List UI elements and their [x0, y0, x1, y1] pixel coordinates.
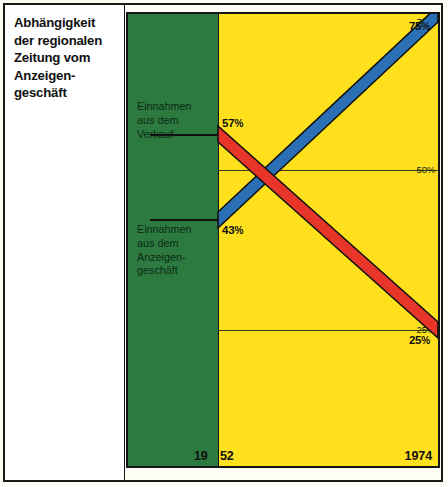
- value-label-57: 57%: [222, 117, 243, 129]
- xtick-1974: 1974: [405, 449, 432, 463]
- series-line-sales: [218, 126, 438, 338]
- plot-area: 75% 50% 25% Einnahmen aus dem Verkauf Ei…: [126, 12, 440, 468]
- value-label-25: 25%: [409, 334, 430, 346]
- title-line-4: Anzeigen-: [14, 67, 122, 85]
- xtick-1952-part2: 52: [220, 449, 234, 463]
- title-line-3: Zeitung vom: [14, 49, 122, 67]
- xtick-1952-part1: 19: [194, 449, 208, 463]
- title-line-2: der regionalen: [14, 32, 122, 50]
- title-line-1: Abhängigkeit: [14, 14, 122, 32]
- value-label-43: 43%: [222, 224, 243, 236]
- chart-page: Abhängigkeit der regionalen Zeitung vom …: [0, 0, 448, 487]
- series-line-ads: [218, 12, 438, 228]
- title-panel: Abhängigkeit der regionalen Zeitung vom …: [5, 5, 125, 480]
- value-label-75: 75%: [409, 20, 430, 32]
- page-title: Abhängigkeit der regionalen Zeitung vom …: [14, 14, 122, 102]
- title-line-5: geschäft: [14, 84, 122, 102]
- data-lines: [128, 14, 438, 466]
